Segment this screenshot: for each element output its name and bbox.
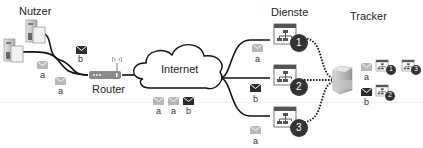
envelope-tracker-a [361,63,372,71]
network-diagram [0,0,423,148]
user-computer-1 [26,20,45,43]
msg-label-user1: b [78,54,83,64]
msg-label-service2: b [253,94,258,104]
envelope-internet-3 [183,97,194,105]
service-number-1: 1 [296,37,302,48]
envelope-tracker-b [361,88,372,96]
service-number-2: 2 [296,81,302,92]
user-computer-2 [4,39,23,62]
internet-label: Internet [161,63,198,75]
envelope-service1-a [252,44,263,52]
envelope-router-a [55,77,66,85]
msg-label-service1: a [255,54,260,64]
tracker-label: Tracker [350,10,387,22]
envelope-user1-b [76,46,87,54]
tracking-link-3 [304,82,332,122]
tracker-user-a-label: a [364,72,369,82]
router-icon [89,57,122,79]
envelope-service3-a [250,126,261,134]
envelope-internet-2 [168,97,179,105]
users-label: Nutzer [19,5,51,17]
msg-label-user2: a [40,70,45,80]
msg-label-internet-2: a [171,106,176,116]
msg-label-router: a [58,86,63,96]
tracker-user-b-label: b [364,97,369,107]
tracking-link-1 [304,38,332,78]
tracker-num-a-3: 3 [414,65,418,72]
msg-label-internet-3: b [186,106,191,116]
services-label: Dienste [271,6,308,18]
tracker-server-icon [333,66,352,94]
envelope-internet-1 [153,97,164,105]
tracker-num-b-2: 2 [388,91,392,98]
tracker-num-a-1: 1 [389,65,393,72]
envelope-user2-a [37,61,48,69]
wire-internet-service3 [220,78,270,116]
envelope-service2-b [250,84,261,92]
msg-label-service3: a [253,136,258,146]
router-label: Router [92,83,125,95]
service-number-3: 3 [296,122,302,133]
msg-label-internet-1: a [156,106,161,116]
